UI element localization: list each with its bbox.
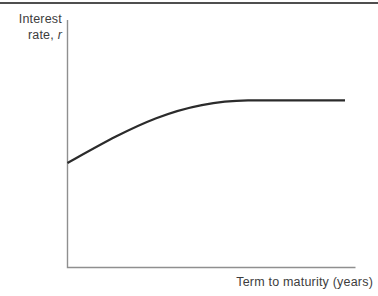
yield-curve-line bbox=[68, 100, 346, 163]
y-axis-variable: r bbox=[58, 28, 62, 42]
x-axis-label: Term to maturity (years) bbox=[236, 275, 373, 289]
axes-lines bbox=[68, 20, 356, 268]
y-axis-label-line1: Interest bbox=[19, 12, 62, 26]
y-axis-label-line2: rate, bbox=[28, 28, 58, 42]
plot-area bbox=[0, 0, 378, 296]
y-axis-label: Interest rate, r bbox=[0, 11, 62, 43]
yield-curve-figure: Interest rate, r Term to maturity (years… bbox=[0, 0, 378, 296]
